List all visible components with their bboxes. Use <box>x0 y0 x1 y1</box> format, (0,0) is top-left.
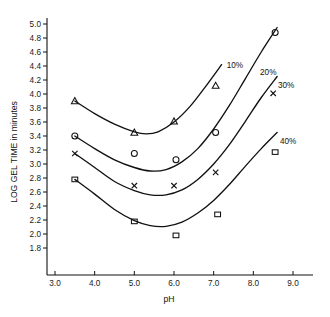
series-label-30pct: 30% <box>278 81 294 90</box>
y-tick-label: 3.0 <box>30 160 42 169</box>
y-tick-label: 2.0 <box>30 230 42 239</box>
series-label-20pct: 20% <box>260 68 276 77</box>
y-axis-ticks: 1.82.02.22.42.62.83.03.23.43.63.84.04.24… <box>30 20 47 253</box>
plot-canvas: 1.82.02.22.42.62.83.03.23.43.63.84.04.24… <box>0 0 330 317</box>
y-tick-label: 4.6 <box>30 48 42 57</box>
series-curve-40pct <box>75 133 277 227</box>
x-tick-label: 3.0 <box>49 279 61 288</box>
series-markers-20pct <box>72 29 278 162</box>
marker-square <box>173 233 179 238</box>
y-tick-label: 2.6 <box>30 188 42 197</box>
x-axis-title: pH <box>164 294 175 304</box>
y-tick-label: 3.2 <box>30 146 42 155</box>
x-tick-label: 8.0 <box>248 279 260 288</box>
series-markers-10pct <box>71 82 219 135</box>
marker-circle <box>131 151 137 157</box>
x-axis-ticks: 3.04.05.06.07.08.09.0 <box>49 271 299 288</box>
x-tick-label: 6.0 <box>168 279 180 288</box>
x-tick-label: 7.0 <box>208 279 220 288</box>
y-tick-label: 2.2 <box>30 216 42 225</box>
marker-square <box>215 212 221 217</box>
marker-triangle <box>212 82 219 88</box>
chart-figure: 1.82.02.22.42.62.83.03.23.43.63.84.04.24… <box>0 0 330 317</box>
marker-triangle <box>171 118 178 124</box>
series-curve-30pct <box>75 77 277 196</box>
y-tick-label: 3.8 <box>30 104 42 113</box>
marker-circle <box>213 130 219 136</box>
marker-circle <box>173 157 179 163</box>
series-curve-10pct <box>75 65 222 134</box>
series-curves <box>75 28 277 227</box>
marker-square <box>272 150 278 155</box>
series-curve-20pct <box>75 28 277 172</box>
x-tick-label: 9.0 <box>287 279 299 288</box>
y-tick-label: 3.6 <box>30 118 42 127</box>
y-tick-label: 4.4 <box>30 62 42 71</box>
y-axis-title: LOG GEL TIME in minutes <box>9 101 19 203</box>
series-label-40pct: 40% <box>280 137 296 146</box>
y-tick-label: 4.2 <box>30 76 42 85</box>
y-tick-label: 2.8 <box>30 174 42 183</box>
y-tick-label: 1.8 <box>30 244 42 253</box>
y-tick-label: 5.0 <box>30 20 42 29</box>
y-tick-label: 4.0 <box>30 90 42 99</box>
series-label-10pct: 10% <box>227 61 243 70</box>
series-markers <box>71 29 278 237</box>
x-tick-label: 5.0 <box>129 279 141 288</box>
y-tick-label: 2.4 <box>30 202 42 211</box>
y-tick-label: 3.4 <box>30 132 42 141</box>
x-tick-label: 4.0 <box>89 279 101 288</box>
y-tick-label: 4.8 <box>30 34 42 43</box>
